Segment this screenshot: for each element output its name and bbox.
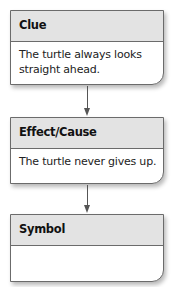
symbol-box: Symbol	[10, 214, 164, 282]
clue-box: Clue The turtle always looks straight ah…	[10, 10, 164, 85]
symbol-text	[11, 246, 163, 251]
clue-text: The turtle always looks straight ahead.	[11, 42, 163, 77]
connector-line-2	[87, 185, 88, 207]
arrow-down-icon	[84, 108, 90, 116]
connector-line-1	[87, 86, 88, 110]
effect-cause-header: Effect/Cause	[11, 118, 163, 149]
clue-header: Clue	[11, 11, 163, 42]
arrow-down-icon	[84, 205, 90, 213]
effect-cause-text: The turtle never gives up.	[11, 149, 163, 169]
symbol-header: Symbol	[11, 215, 163, 246]
effect-cause-box: Effect/Cause The turtle never gives up.	[10, 117, 164, 184]
